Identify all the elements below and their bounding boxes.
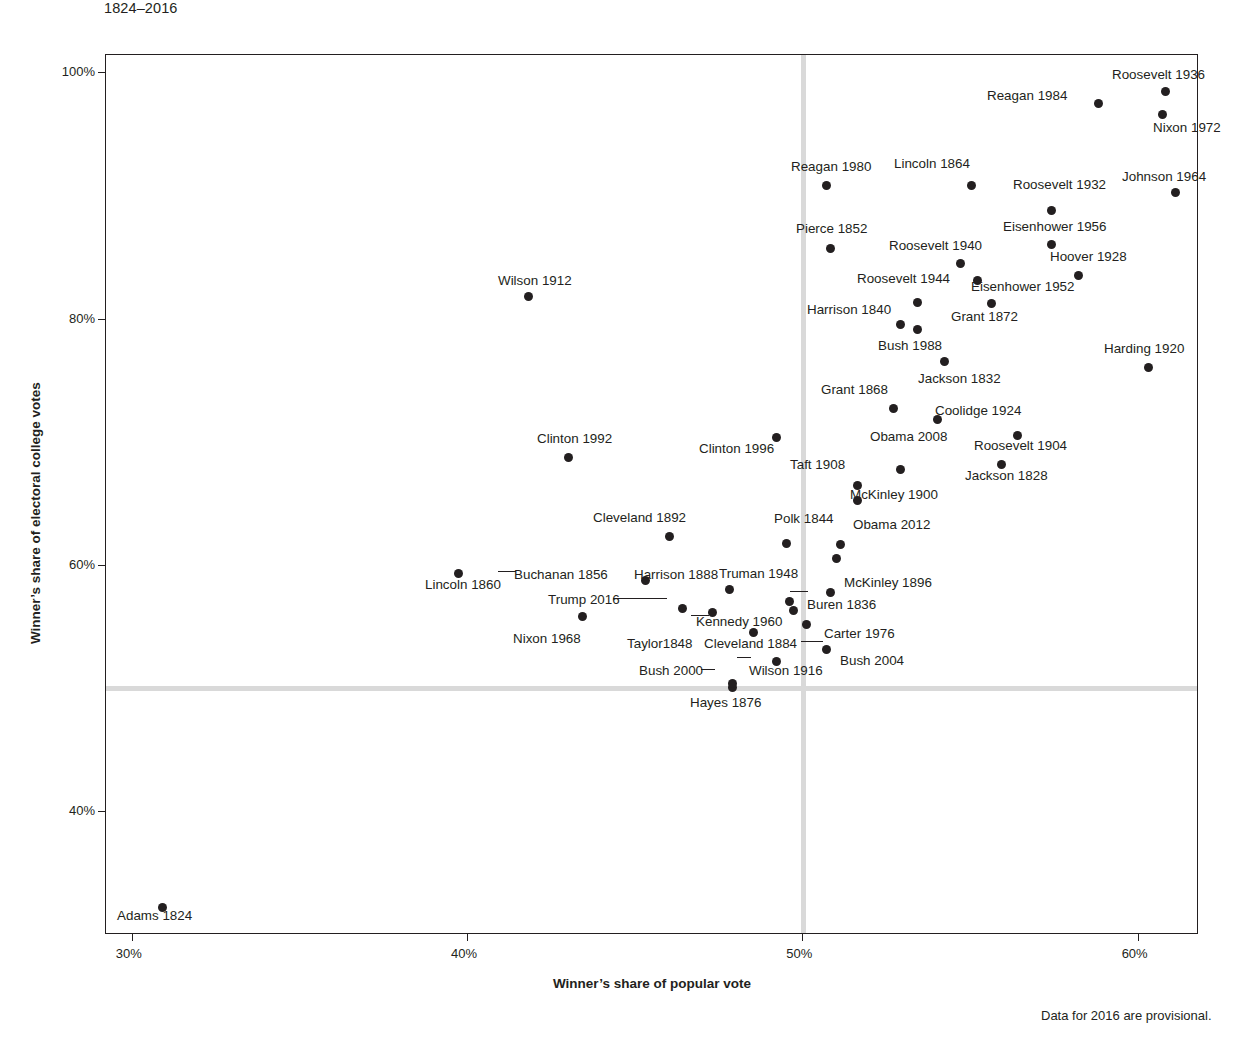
- point-label: Roosevelt 1944: [857, 272, 950, 285]
- point-label: Adams 1824: [117, 909, 192, 922]
- gridline-vertical-50pct: [801, 55, 806, 933]
- data-point: [940, 357, 949, 366]
- data-point: [1074, 271, 1083, 280]
- gridline-horizontal-50pct: [106, 686, 1197, 691]
- point-label: Grant 1872: [951, 310, 1018, 323]
- point-label: Bush 2000: [639, 664, 703, 677]
- x-tick-mark: [802, 934, 803, 941]
- x-tick-label: 30%: [116, 946, 142, 961]
- point-label: Lincoln 1864: [894, 157, 970, 170]
- data-point: [967, 181, 976, 190]
- label-leader-line: [790, 591, 808, 592]
- data-point: [782, 539, 791, 548]
- data-point: [896, 320, 905, 329]
- x-tick-mark: [467, 934, 468, 941]
- footnote: Data for 2016 are provisional.: [1041, 1008, 1212, 1023]
- point-label: Eisenhower 1952: [971, 280, 1074, 293]
- point-label: Roosevelt 1936: [1112, 68, 1205, 81]
- chart-subtitle: 1824–2016: [104, 0, 177, 16]
- point-label: Truman 1948: [719, 567, 798, 580]
- label-leader-line: [498, 571, 516, 572]
- x-tick-label: 60%: [1122, 946, 1148, 961]
- point-label: Eisenhower 1956: [1003, 220, 1106, 233]
- point-label: Wilson 1916: [749, 664, 823, 677]
- point-label: Clinton 1992: [537, 432, 612, 445]
- y-axis-title: Winner’s share of electoral college vote…: [28, 382, 43, 644]
- point-label: Roosevelt 1904: [974, 439, 1067, 452]
- label-leader-line: [737, 657, 751, 658]
- data-point: [987, 299, 996, 308]
- point-label: Polk 1844: [774, 512, 834, 525]
- data-point: [725, 585, 734, 594]
- label-leader-line: [701, 669, 715, 670]
- data-point: [826, 588, 835, 597]
- data-point: [822, 645, 831, 654]
- data-point: [1144, 363, 1153, 372]
- point-label: Harding 1920: [1104, 342, 1184, 355]
- point-label: Trump 2016: [548, 593, 620, 606]
- data-point: [889, 404, 898, 413]
- point-label: Roosevelt 1932: [1013, 178, 1106, 191]
- data-point: [802, 620, 811, 629]
- y-tick-label: 100%: [45, 64, 95, 79]
- data-point: [822, 181, 831, 190]
- point-label: Harrison 1840: [807, 303, 891, 316]
- label-leader-line: [613, 598, 667, 599]
- y-tick-label: 40%: [45, 803, 95, 818]
- data-point: [785, 597, 794, 606]
- point-label: Jackson 1828: [965, 469, 1048, 482]
- point-label: Lincoln 1860: [425, 578, 501, 591]
- x-tick-label: 50%: [786, 946, 812, 961]
- data-point: [1094, 99, 1103, 108]
- data-point: [1161, 87, 1170, 96]
- data-point: [836, 540, 845, 549]
- point-label: Buchanan 1856: [514, 568, 608, 581]
- y-tick-label: 80%: [45, 311, 95, 326]
- data-point: [789, 606, 798, 615]
- point-label: Bush 2004: [840, 654, 904, 667]
- point-label: Clinton 1996: [699, 442, 774, 455]
- point-label: Reagan 1980: [791, 160, 871, 173]
- y-tick-mark: [98, 72, 105, 73]
- data-point: [1158, 110, 1167, 119]
- data-point: [913, 298, 922, 307]
- data-point: [524, 292, 533, 301]
- data-point: [578, 612, 587, 621]
- point-label: Pierce 1852: [796, 222, 867, 235]
- data-point: [1047, 240, 1056, 249]
- data-point: [826, 244, 835, 253]
- point-label: Hoover 1928: [1050, 250, 1127, 263]
- point-label: Nixon 1972: [1153, 121, 1221, 134]
- point-label: McKinley 1900: [850, 488, 938, 501]
- data-point: [564, 453, 573, 462]
- data-point: [1047, 206, 1056, 215]
- data-point: [913, 325, 922, 334]
- point-label: Harrison 1888: [634, 568, 718, 581]
- scatter-plot-area: Adams 1824Jackson 1828Jackson 1832Buren …: [105, 54, 1198, 934]
- data-point: [956, 259, 965, 268]
- data-point: [832, 554, 841, 563]
- point-label: Roosevelt 1940: [889, 239, 982, 252]
- x-axis-title: Winner’s share of popular vote: [553, 976, 751, 991]
- x-tick-mark: [132, 934, 133, 941]
- point-label: Johnson 1964: [1122, 170, 1206, 183]
- point-label: Cleveland 1884: [704, 637, 797, 650]
- point-label: Obama 2008: [870, 430, 947, 443]
- point-label: Bush 1988: [878, 339, 942, 352]
- point-label: Reagan 1984: [987, 89, 1067, 102]
- x-tick-mark: [1138, 934, 1139, 941]
- y-tick-mark: [98, 565, 105, 566]
- point-label: Nixon 1968: [513, 632, 581, 645]
- data-point: [1171, 188, 1180, 197]
- y-tick-label: 60%: [45, 557, 95, 572]
- label-leader-line: [801, 641, 823, 642]
- point-label: Jackson 1832: [918, 372, 1001, 385]
- data-point: [678, 604, 687, 613]
- point-label: Obama 2012: [853, 518, 930, 531]
- data-point: [665, 532, 674, 541]
- point-label: Kennedy 1960: [696, 615, 782, 628]
- point-label: Grant 1868: [821, 383, 888, 396]
- point-label: Taft 1908: [790, 458, 845, 471]
- point-label: Wilson 1912: [498, 274, 572, 287]
- point-label: Carter 1976: [824, 627, 895, 640]
